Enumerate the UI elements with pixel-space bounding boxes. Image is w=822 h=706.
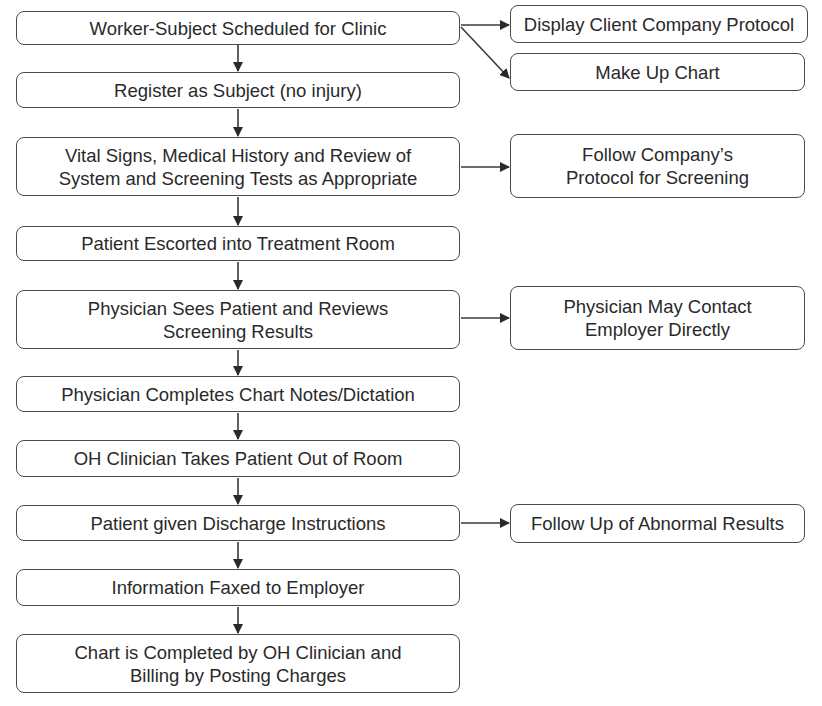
step-label: Physician Sees Patient and Reviews Scree… [88,297,388,343]
side-follow-company-protocol: Follow Company’s Protocol for Screening [510,134,805,198]
step-label: Worker-Subject Scheduled for Clinic [90,17,387,40]
step-register-as-subject: Register as Subject (no injury) [16,72,460,108]
step-label: Chart is Completed by OH Clinician and B… [75,641,402,687]
step-chart-completed-billing: Chart is Completed by OH Clinician and B… [16,634,460,693]
step-label: Patient Escorted into Treatment Room [81,232,395,255]
side-display-client-protocol: Display Client Company Protocol [510,5,808,43]
step-label: Make Up Chart [595,61,719,84]
step-label: Follow Company’s Protocol for Screening [566,143,749,189]
side-follow-up-abnormal: Follow Up of Abnormal Results [510,504,805,543]
step-oh-clinician-takes-patient: OH Clinician Takes Patient Out of Room [16,440,460,477]
step-label: Register as Subject (no injury) [114,79,362,102]
arrow-m1-s2 [461,27,509,78]
step-label: Physician May Contact Employer Directly [563,295,751,341]
step-vital-signs-history: Vital Signs, Medical History and Review … [16,137,460,196]
step-discharge-instructions: Patient given Discharge Instructions [16,505,460,541]
side-physician-may-contact: Physician May Contact Employer Directly [510,286,805,350]
step-label: Physician Completes Chart Notes/Dictatio… [61,383,415,406]
step-label: Display Client Company Protocol [524,13,794,36]
side-make-up-chart: Make Up Chart [510,53,805,91]
step-worker-subject-scheduled: Worker-Subject Scheduled for Clinic [16,11,460,45]
step-physician-sees-patient: Physician Sees Patient and Reviews Scree… [16,290,460,349]
step-label: OH Clinician Takes Patient Out of Room [74,447,403,470]
step-label: Information Faxed to Employer [112,576,365,599]
step-physician-completes-notes: Physician Completes Chart Notes/Dictatio… [16,376,460,412]
step-patient-escorted: Patient Escorted into Treatment Room [16,226,460,261]
step-label: Vital Signs, Medical History and Review … [59,144,418,190]
step-label: Patient given Discharge Instructions [90,512,385,535]
step-label: Follow Up of Abnormal Results [531,512,784,535]
step-information-faxed: Information Faxed to Employer [16,569,460,606]
